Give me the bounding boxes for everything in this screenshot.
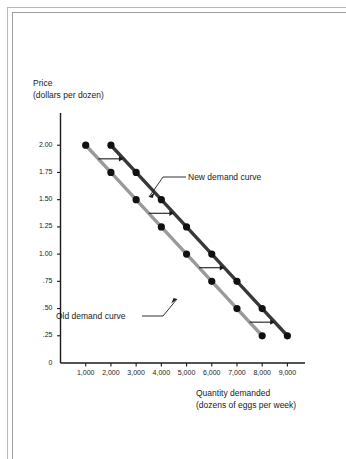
data-point-marker xyxy=(183,251,190,258)
axes-group xyxy=(61,113,306,363)
old-demand-curve xyxy=(82,142,266,340)
data-point-marker xyxy=(133,169,140,176)
data-point-marker xyxy=(158,223,165,230)
data-point-marker xyxy=(284,332,291,339)
old-demand-curve-leader xyxy=(142,299,177,316)
chart-plot-area xyxy=(0,0,346,459)
data-point-marker xyxy=(259,332,266,339)
data-point-marker xyxy=(259,305,266,312)
data-point-marker xyxy=(107,169,114,176)
data-point-marker xyxy=(208,278,215,285)
data-point-marker xyxy=(82,142,89,149)
data-point-marker xyxy=(233,305,240,312)
data-point-marker xyxy=(107,142,114,149)
new-demand-curve xyxy=(107,142,291,340)
data-point-marker xyxy=(158,196,165,203)
shift-arrow-group xyxy=(98,156,274,325)
data-point-marker xyxy=(133,196,140,203)
data-point-marker xyxy=(233,278,240,285)
data-point-marker xyxy=(208,251,215,258)
demand-curve-figure: Price(dollars per dozen) Quantity demand… xyxy=(0,0,346,459)
data-point-marker xyxy=(183,223,190,230)
